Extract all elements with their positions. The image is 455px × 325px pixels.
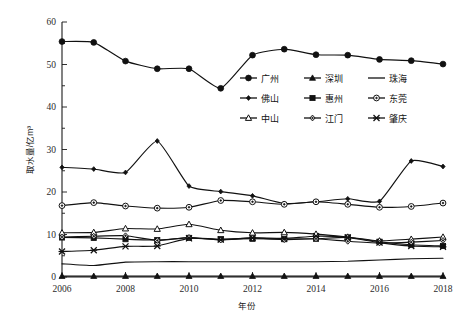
x-tick-label: 2018 (434, 284, 453, 294)
water-withdrawal-line-chart: 0102030405060 20062008201020122014201620… (0, 0, 455, 325)
legend-entry-东莞[interactable]: 东莞 (368, 93, 407, 104)
legend-label: 江门 (325, 113, 343, 124)
x-tick-label: 2012 (243, 284, 262, 294)
x-tick-label: 2010 (180, 284, 199, 294)
legend-label: 惠州 (325, 93, 343, 104)
legend-label: 珠海 (389, 73, 407, 84)
legend-label: 深圳 (325, 74, 343, 84)
series-深圳 (59, 273, 446, 278)
legend-label: 佛山 (261, 93, 279, 104)
y-tick-label: 0 (51, 272, 56, 282)
chart-legend: 广州深圳珠海佛山惠州东莞中山江门肇庆 (240, 73, 407, 124)
legend-label: 东莞 (389, 93, 407, 104)
y-tick-label: 20 (47, 187, 57, 197)
legend-label: 中山 (261, 113, 279, 124)
series-珠海 (62, 258, 443, 265)
series-广州 (59, 39, 446, 92)
y-axis-title: 取水量/亿m³ (25, 126, 35, 174)
y-tick-label: 30 (47, 145, 57, 155)
series-东莞 (59, 198, 446, 211)
legend-entry-惠州[interactable]: 惠州 (304, 93, 343, 104)
x-axis-title: 年份 (238, 301, 256, 311)
x-tick-label: 2014 (307, 284, 326, 294)
legend-label: 广州 (261, 73, 279, 84)
legend-entry-江门[interactable]: 江门 (304, 113, 343, 124)
x-tick-label: 2016 (370, 284, 389, 294)
legend-entry-佛山[interactable]: 佛山 (240, 93, 279, 104)
y-tick-label: 10 (47, 230, 57, 240)
legend-entry-广州[interactable]: 广州 (240, 73, 279, 84)
x-tick-label: 2006 (53, 284, 72, 294)
legend-label: 肇庆 (389, 113, 407, 124)
series-line (62, 41, 443, 88)
legend-entry-肇庆[interactable]: 肇庆 (368, 113, 407, 124)
y-tick-label: 60 (47, 17, 57, 27)
series-佛山 (60, 139, 445, 206)
chart-canvas: 0102030405060 20062008201020122014201620… (0, 0, 455, 325)
legend-entry-珠海[interactable]: 珠海 (368, 73, 407, 84)
y-tick-label: 50 (47, 60, 57, 70)
legend-entry-中山[interactable]: 中山 (240, 113, 279, 124)
legend-entry-深圳[interactable]: 深圳 (304, 74, 343, 84)
x-tick-label: 2008 (116, 284, 135, 294)
y-tick-label: 40 (47, 102, 57, 112)
y-axis: 0102030405060 (47, 17, 68, 282)
series-line (62, 258, 443, 265)
